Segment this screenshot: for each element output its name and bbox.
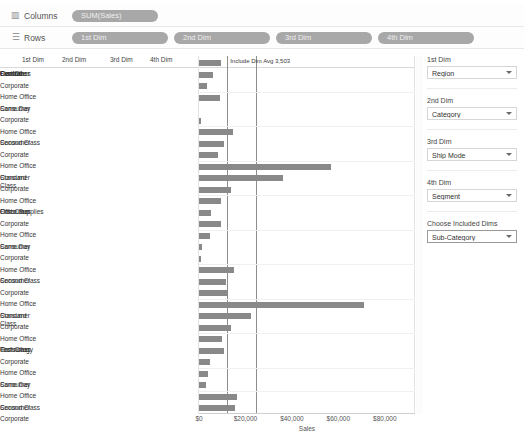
chevron-down-icon[interactable] <box>506 71 512 74</box>
parameter-dropdown[interactable]: Ship Mode <box>427 148 517 161</box>
bar[interactable] <box>199 348 224 354</box>
row-label-dim4[interactable]: Corporate <box>0 151 29 159</box>
row-label-dim4[interactable]: Consumer <box>0 404 30 412</box>
parameter-title: 2nd Dim <box>427 97 517 104</box>
chevron-down-icon[interactable] <box>506 235 512 238</box>
bar[interactable] <box>199 279 226 285</box>
pill-2nd-dim[interactable]: 2nd Dim <box>174 32 270 44</box>
parameter-dropdown[interactable]: Sub-Category <box>427 230 517 243</box>
bar[interactable] <box>199 141 224 147</box>
row-label-dim4[interactable]: Consumer <box>0 139 30 147</box>
row-group-separator <box>199 126 415 127</box>
bar[interactable] <box>199 118 201 124</box>
row-group-separator <box>199 333 415 334</box>
row-label-dim4[interactable]: Home Office <box>0 162 36 170</box>
bar[interactable] <box>199 95 220 101</box>
row-label-dim4[interactable]: Home Office <box>0 369 36 377</box>
vertical-scrollbar-track[interactable] <box>416 56 423 413</box>
columns-shelf[interactable]: ▥ Columns SUM(Sales) <box>0 5 524 27</box>
parameter-title: 1st Dim <box>427 56 517 63</box>
parameter-value: Category <box>432 111 502 118</box>
row-group-separator <box>199 264 415 265</box>
bar[interactable] <box>199 405 235 411</box>
bar[interactable] <box>199 302 364 308</box>
row-label-dim4[interactable]: Consumer <box>0 105 30 113</box>
pill-1st-dim[interactable]: 1st Dim <box>72 32 168 44</box>
row-group-separator <box>199 195 415 196</box>
row-label-dim4[interactable]: Home Office <box>0 197 36 205</box>
bar[interactable] <box>199 244 202 250</box>
bar[interactable] <box>199 371 208 377</box>
chevron-down-icon[interactable] <box>506 194 512 197</box>
chevron-down-icon[interactable] <box>506 112 512 115</box>
row-label-dim4[interactable]: Home Office <box>0 300 36 308</box>
panel-divider <box>427 170 517 171</box>
pill-sum-sales[interactable]: SUM(Sales) <box>72 10 158 22</box>
bar[interactable] <box>199 256 201 262</box>
row-group-separator <box>199 368 415 369</box>
row-label-dim4[interactable]: Corporate <box>0 82 29 90</box>
row-label-dim4[interactable]: Home Office <box>0 266 36 274</box>
panel-divider <box>427 129 517 130</box>
x-axis-tick: $80,000 <box>373 415 397 422</box>
row-label-dim4[interactable]: Consumer <box>0 208 30 216</box>
reference-label-include-dim-avg: Include Dim Avg 3,503 <box>230 58 290 64</box>
bar[interactable] <box>199 325 231 331</box>
parameter-value: Segment <box>432 193 502 200</box>
row-group-separator <box>199 92 415 93</box>
bar[interactable] <box>199 83 207 89</box>
bar[interactable] <box>199 72 213 78</box>
parameter-value: Sub-Category <box>432 234 502 241</box>
parameter-dropdown[interactable]: Category <box>427 107 517 120</box>
bar[interactable] <box>199 382 206 388</box>
row-label-dim4[interactable]: Consumer <box>0 277 30 285</box>
bar[interactable] <box>199 336 222 342</box>
bar[interactable] <box>199 221 221 227</box>
bar[interactable] <box>199 267 234 273</box>
row-label-dim4[interactable]: Consumer <box>0 70 30 78</box>
bar[interactable] <box>199 394 237 400</box>
bar[interactable] <box>199 187 231 193</box>
row-label-dim4[interactable]: Corporate <box>0 323 29 331</box>
parameter-2nd-dim: 2nd DimCategory <box>427 97 517 120</box>
bar[interactable] <box>199 359 210 365</box>
bar[interactable] <box>199 290 228 296</box>
bar[interactable] <box>199 198 221 204</box>
row-label-dim4[interactable]: Corporate <box>0 358 29 366</box>
bar[interactable] <box>199 233 210 239</box>
parameter-dropdown[interactable]: Segment <box>427 189 517 202</box>
panel-divider <box>427 88 517 89</box>
chevron-down-icon[interactable] <box>506 153 512 156</box>
row-label-dim4[interactable]: Home Office <box>0 335 36 343</box>
row-label-dim4[interactable]: Corporate <box>0 220 29 228</box>
row-label-dim4[interactable]: Consumer <box>0 243 30 251</box>
row-label-dim4[interactable]: Home Office <box>0 93 36 101</box>
parameter-4th-dim: 4th DimSegment <box>427 179 517 202</box>
pill-3rd-dim[interactable]: 3rd Dim <box>276 32 372 44</box>
parameter-title: Choose Included Dims <box>427 220 517 227</box>
bar[interactable] <box>199 129 233 135</box>
bar[interactable] <box>199 60 221 66</box>
pill-4th-dim[interactable]: 4th Dim <box>378 32 474 44</box>
row-label-dim4[interactable]: Home Office <box>0 128 36 136</box>
rows-shelf[interactable]: ☰ Rows 1st Dim 2nd Dim 3rd Dim 4th Dim <box>0 27 524 49</box>
row-label-dim4[interactable]: Corporate <box>0 289 29 297</box>
row-label-dim4[interactable]: Corporate <box>0 254 29 262</box>
x-axis-title: Sales <box>199 425 415 432</box>
row-label-dim4[interactable]: Home Office <box>0 231 36 239</box>
bar[interactable] <box>199 313 251 319</box>
row-label-dim4[interactable]: Consumer <box>0 346 30 354</box>
x-axis-tick: $40,000 <box>280 415 304 422</box>
row-label-dim4[interactable]: Corporate <box>0 116 29 124</box>
bar[interactable] <box>199 175 283 181</box>
bar[interactable] <box>199 152 218 158</box>
row-label-dim4[interactable]: Home Office <box>0 392 36 400</box>
bar[interactable] <box>199 210 211 216</box>
row-label-dim4[interactable]: Consumer <box>0 174 30 182</box>
row-label-dim4[interactable]: Corporate <box>0 185 29 193</box>
bar[interactable] <box>199 164 331 170</box>
row-label-dim4[interactable]: Consumer <box>0 312 30 320</box>
x-axis-line <box>199 413 415 414</box>
parameter-dropdown[interactable]: Region <box>427 66 517 79</box>
row-label-dim4[interactable]: Consumer <box>0 381 30 389</box>
